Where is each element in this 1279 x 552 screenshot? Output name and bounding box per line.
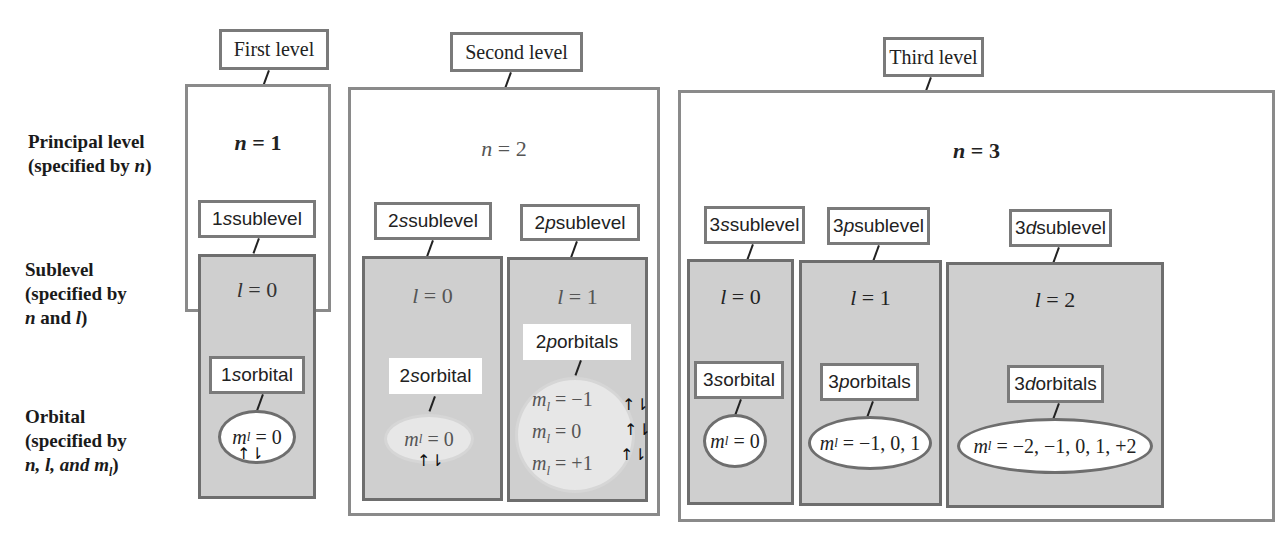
3d-orbitals-tag: 3d orbitals xyxy=(1007,365,1104,403)
1s-sublevel-tag: 1s sublevel xyxy=(198,200,316,238)
electron-spin-pair-icon: ↑⇂ xyxy=(622,395,649,414)
connector xyxy=(505,72,512,88)
l-equals-1: l = 1 xyxy=(507,284,648,310)
electron-spin-pair-icon: ↑⇂ xyxy=(620,445,647,464)
2p-sublevel-tag: 2p sublevel xyxy=(520,204,640,241)
3s-orbital-tag: 3s orbital xyxy=(694,361,784,399)
3d-orbitals-ellipse: ml = −2, −1, 0, 1, +2 xyxy=(957,418,1153,474)
3s-sublevel-tag: 3s sublevel xyxy=(704,206,805,244)
third-level-tag: Third level xyxy=(883,37,984,77)
connector xyxy=(263,70,270,85)
n-equals-3: n = 3 xyxy=(678,138,1275,164)
l-equals-0: l = 0 xyxy=(198,277,316,303)
3p-sublevel-tag: 3p sublevel xyxy=(827,207,930,245)
2s-orbital-tag: 2s orbital xyxy=(389,358,482,394)
row-label-sublevel: Sublevel (specified by n and l) xyxy=(25,258,127,330)
3d-sublevel-tag: 3d sublevel xyxy=(1009,209,1112,247)
2s-sublevel-tag: 2s sublevel xyxy=(374,202,492,240)
row-label-orbital: Orbital (specified by n, l, and ml) xyxy=(25,405,127,484)
n-equals-1: n = 1 xyxy=(185,130,331,156)
1s-orbital-tag: 1s orbital xyxy=(209,356,305,394)
l-equals-0: l = 0 xyxy=(687,284,794,310)
3s-orbital-ellipse: ml = 0 xyxy=(703,414,767,468)
electron-spin-pair-icon: ↑⇂ xyxy=(624,420,651,439)
3p-orbitals-tag: 3p orbitals xyxy=(820,363,919,401)
l-equals-0: l = 0 xyxy=(362,283,503,309)
first-level-tag: First level xyxy=(219,29,329,70)
2p-orbitals-ellipse: ml = −1 ml = 0 ml = +1 xyxy=(515,377,635,493)
electron-spin-pair-icon: ↑⇂ xyxy=(237,444,264,463)
row-label-principal: Principal level (specified by n) xyxy=(28,130,152,178)
second-level-tag: Second level xyxy=(450,32,583,72)
electron-spin-pair-icon: ↑⇂ xyxy=(417,451,444,470)
l-equals-2: l = 2 xyxy=(946,287,1164,313)
l-equals-1: l = 1 xyxy=(799,285,942,311)
2p-orbitals-tag: 2p orbitals xyxy=(523,324,631,360)
3p-orbitals-ellipse: ml = −1, 0, 1 xyxy=(808,416,932,470)
n-equals-2: n = 2 xyxy=(348,136,660,162)
